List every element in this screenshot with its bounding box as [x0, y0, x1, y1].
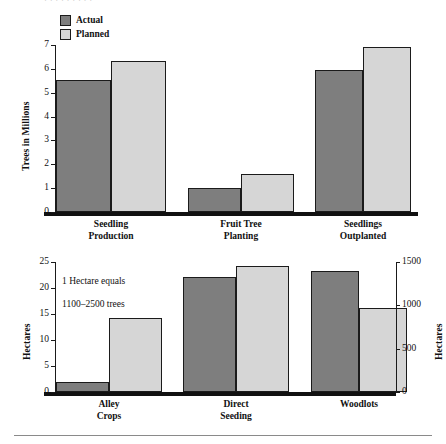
category-label-line: Outplanted	[308, 231, 418, 243]
bar-actual	[311, 271, 359, 392]
bar-planned	[241, 174, 294, 212]
category-label-line: Planting	[186, 231, 296, 243]
category-label-line: Seedlings	[308, 219, 418, 231]
y-tick-label: 4	[23, 112, 49, 122]
category-label: SeedlingsOutplanted	[308, 219, 418, 242]
trees-in-millions-chart: Actual Planned Trees in Millions 0123456…	[0, 0, 446, 250]
y-tick-label: 15	[23, 309, 49, 319]
y-axis-line-top	[55, 45, 56, 213]
category-label-line: Seedling	[56, 219, 166, 231]
bar-planned	[359, 308, 407, 393]
y-tick	[51, 366, 55, 367]
y-tick-label: 0	[23, 387, 49, 397]
legend-swatch-planned	[60, 29, 71, 40]
y-tick-label: 6	[23, 64, 49, 74]
bar-actual	[56, 80, 111, 212]
x-axis-baseline-bottom	[44, 392, 396, 396]
bar-planned	[109, 318, 162, 392]
y-tick-label: 3	[23, 135, 49, 145]
y-tick-right	[396, 262, 400, 263]
legend-swatch-actual	[60, 15, 71, 26]
y-tick	[51, 288, 55, 289]
y-tick	[51, 117, 55, 118]
legend-label-planned: Planned	[76, 29, 109, 40]
y-tick	[51, 212, 55, 213]
y-axis-line-bottom-left	[55, 262, 56, 393]
y-tick	[51, 188, 55, 189]
bar-actual	[188, 188, 241, 212]
category-label-line: Direct	[181, 399, 291, 411]
y-tick-label: 7	[23, 40, 49, 50]
y-tick	[51, 164, 55, 165]
plot-area-bottom	[56, 262, 396, 392]
y-tick-label: 1	[23, 183, 49, 193]
y-axis-line-bottom-right	[396, 262, 397, 393]
y-tick-label-right: 0	[402, 387, 407, 397]
y-tick-right	[396, 392, 400, 393]
y-tick	[51, 392, 55, 393]
bar-planned	[111, 61, 166, 212]
hectares-chart: 1 Hectare equals 1100–2500 trees Hectare…	[0, 250, 446, 444]
y-tick-label-right: 500	[402, 344, 416, 354]
y-tick-label: 5	[23, 361, 49, 371]
category-label-line: Crops	[54, 411, 164, 423]
category-label: SeedlingProduction	[56, 219, 166, 242]
y-tick-label: 25	[23, 257, 49, 267]
y-tick-label: 20	[23, 283, 49, 293]
y-tick-label: 2	[23, 159, 49, 169]
y-tick-right	[396, 305, 400, 306]
bar-actual	[183, 277, 236, 392]
footer-divider	[14, 435, 432, 436]
y-tick-right	[396, 349, 400, 350]
legend-item-planned: Planned	[60, 28, 109, 41]
category-label-line: Seeding	[181, 411, 291, 423]
legend-item-actual: Actual	[60, 14, 109, 27]
y-tick	[51, 69, 55, 70]
legend-label-actual: Actual	[76, 15, 103, 26]
x-axis-baseline-top	[44, 212, 418, 216]
y-tick-label: 10	[23, 335, 49, 345]
y-tick-label: 0	[23, 207, 49, 217]
y-axis-title-bottom-right: Hectares	[434, 324, 444, 361]
category-label-line: Alley	[54, 399, 164, 411]
category-label-line: Production	[56, 231, 166, 243]
y-tick-label-right: 1500	[402, 257, 421, 267]
bar-planned	[363, 47, 411, 212]
category-label: DirectSeeding	[181, 399, 291, 422]
y-tick	[51, 314, 55, 315]
y-tick-label: 5	[23, 88, 49, 98]
category-label-line: Woodlots	[304, 399, 414, 411]
y-tick	[51, 93, 55, 94]
bar-planned	[236, 266, 289, 392]
bar-actual	[56, 382, 109, 392]
chart-legend: Actual Planned	[60, 14, 109, 42]
category-label: AlleyCrops	[54, 399, 164, 422]
figure-page: · · · · · · · · · Actual Planned Trees i…	[0, 0, 446, 444]
y-tick	[51, 45, 55, 46]
category-label-line: Fruit Tree	[186, 219, 296, 231]
plot-area-top	[56, 45, 411, 212]
bar-actual	[315, 70, 363, 212]
category-label: Woodlots	[304, 399, 414, 411]
category-label: Fruit TreePlanting	[186, 219, 296, 242]
y-tick	[51, 340, 55, 341]
y-tick	[51, 262, 55, 263]
y-tick-label-right: 1000	[402, 300, 421, 310]
y-tick	[51, 140, 55, 141]
